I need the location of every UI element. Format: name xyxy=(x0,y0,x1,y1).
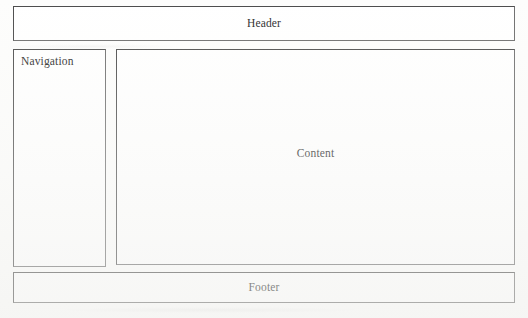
header-region-label: Header xyxy=(247,17,281,31)
navigation-region-label: Navigation xyxy=(21,55,105,69)
footer-region: Footer xyxy=(13,272,515,303)
footer-region-label: Footer xyxy=(249,281,280,295)
content-region-label: Content xyxy=(297,147,334,161)
content-region: Content xyxy=(116,49,515,265)
header-region: Header xyxy=(13,6,515,41)
navigation-region: Navigation xyxy=(13,49,106,267)
scan-artifact-bottom xyxy=(60,307,360,313)
layout-wireframe-diagram: Header Navigation Content Footer xyxy=(0,0,528,318)
